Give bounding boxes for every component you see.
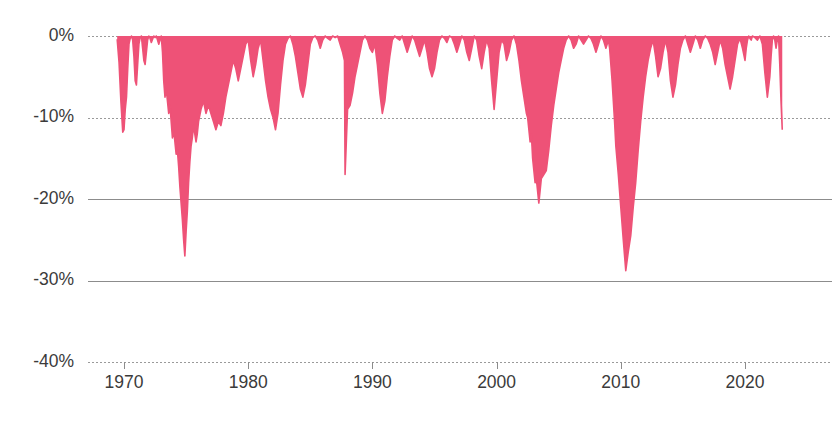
y-tick-label--30: -30% — [33, 269, 74, 289]
x-tick-label-1970: 1970 — [105, 372, 144, 392]
drawdown-chart: 0%-10%-20%-30%-40% 197019801990200020102… — [0, 0, 832, 433]
x-tick-label-2020: 2020 — [726, 372, 765, 392]
axis-ticks — [125, 362, 746, 369]
y-axis-tick-labels: 0%-10%-20%-30%-40% — [33, 25, 74, 371]
y-tick-label--40: -40% — [33, 351, 74, 371]
drawdown-area-series — [117, 36, 782, 271]
x-tick-label-2000: 2000 — [477, 372, 516, 392]
drawdown-area — [117, 36, 782, 271]
y-tick-label-0: 0% — [49, 25, 74, 45]
x-tick-label-2010: 2010 — [601, 372, 640, 392]
x-axis-tick-labels: 197019801990200020102020 — [105, 372, 765, 392]
y-tick-label--20: -20% — [33, 188, 74, 208]
x-tick-label-1990: 1990 — [353, 372, 392, 392]
chart-canvas: 0%-10%-20%-30%-40% 197019801990200020102… — [0, 0, 832, 433]
x-tick-label-1980: 1980 — [229, 372, 268, 392]
y-tick-label--10: -10% — [33, 106, 74, 126]
